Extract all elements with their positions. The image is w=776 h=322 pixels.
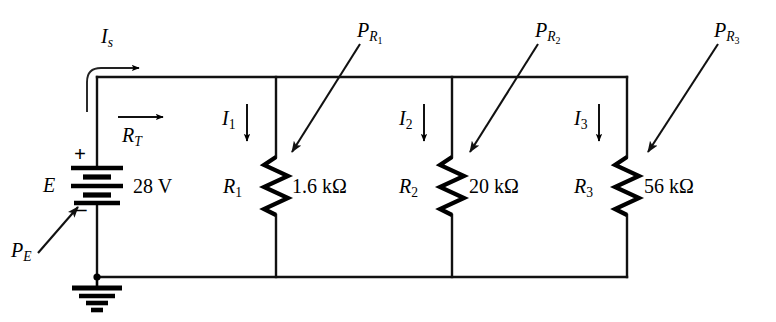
source-polarity-plus: + (74, 144, 86, 165)
source-name-label: E (43, 175, 55, 195)
is-current-arrow (87, 68, 139, 112)
current-i1-label: I1 (222, 108, 235, 131)
pr3-pointer-arrow (648, 44, 718, 152)
resistor-r1-value-label: 1.6 kΩ (292, 176, 347, 196)
power-pe-label: PE (11, 240, 32, 263)
current-i2-label: I2 (399, 108, 412, 131)
resistor-r1-zigzag (264, 157, 288, 215)
power-pr1-label: PR1 (357, 20, 383, 46)
total-resistance-label: RT (122, 125, 142, 148)
source-value-label: 28 V (133, 176, 172, 196)
ground-symbol (72, 273, 122, 310)
circuit-diagram: Is RT E + – 28 V PE I1 I2 I3 R1 1.6 kΩ R… (0, 0, 776, 322)
circuit-schematic-svg (0, 0, 776, 322)
resistor-r3-name-label: R3 (574, 176, 593, 199)
resistor-r3-value-label: 56 kΩ (644, 176, 694, 196)
resistor-r2-zigzag (440, 157, 464, 215)
source-polarity-minus: – (76, 199, 87, 220)
resistor-r3-zigzag (615, 157, 639, 215)
power-pr3-label: PR3 (714, 20, 740, 46)
branch-current-arrows (247, 104, 599, 141)
pr1-pointer-arrow (292, 44, 360, 152)
circuit-wires (97, 77, 627, 277)
current-is-label: Is (101, 26, 113, 49)
resistor-r1-name-label: R1 (223, 176, 242, 199)
resistor-r2-name-label: R2 (399, 176, 418, 199)
resistor-r2-value-label: 20 kΩ (469, 176, 519, 196)
pe-pointer-arrow (38, 207, 78, 253)
pr2-pointer-arrow (470, 44, 538, 152)
is-arrow-path (87, 68, 139, 112)
power-pr2-label: PR2 (535, 20, 561, 46)
current-i3-label: I3 (574, 108, 587, 131)
